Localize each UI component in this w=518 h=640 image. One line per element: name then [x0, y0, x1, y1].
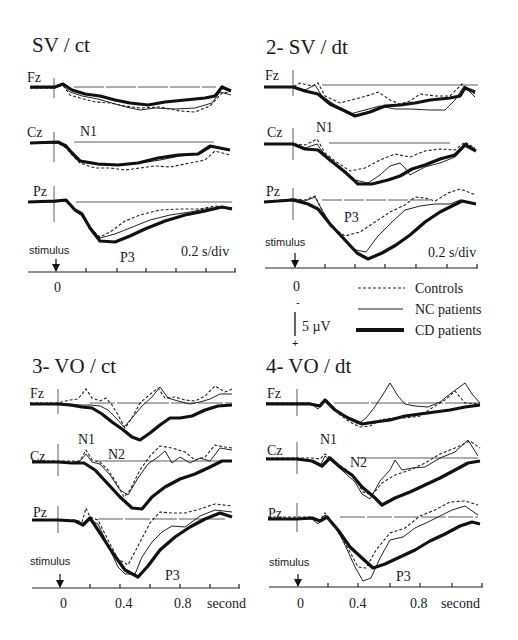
electrode-label-fz: Fz	[27, 70, 41, 85]
xaxis-unit: second	[207, 596, 246, 611]
xaxis-unit: second	[441, 596, 480, 611]
component-label-n2: N2	[108, 447, 125, 462]
trace-cd	[30, 404, 232, 440]
component-label-p3: P3	[120, 250, 135, 265]
stimulus-label: stimulus	[30, 555, 71, 567]
panel-vo-dt: 4- VO / dt Fz Cz N1 N2 Pz stimulus P3	[266, 354, 483, 611]
component-label-p3: P3	[165, 568, 180, 583]
legend-label-controls: Controls	[415, 281, 463, 296]
legend-label-cd: CD patients	[415, 323, 482, 338]
trace-cd	[264, 87, 475, 116]
component-label-n1: N1	[78, 432, 95, 447]
stimulus-arrow-icon	[294, 574, 302, 587]
component-label-n1: N1	[316, 120, 333, 135]
panel-title: 3- VO / ct	[32, 354, 116, 378]
xtick-0-8: 0.8	[174, 596, 192, 611]
electrode-label-pz: Pz	[266, 184, 280, 199]
electrode-label-cz: Cz	[267, 443, 283, 458]
electrode-label-cz: Cz	[267, 125, 283, 140]
svg-text:+: +	[292, 337, 298, 349]
component-label-p3: P3	[344, 210, 359, 225]
electrode-label-pz: Pz	[33, 505, 47, 520]
timescale-label: 0.2 s/div	[181, 244, 229, 259]
xtick-0: 0	[297, 596, 304, 611]
panel-title: 2- SV / dt	[266, 35, 348, 59]
electrode-label-fz: Fz	[265, 68, 279, 83]
legend-label-nc: NC patients	[415, 302, 482, 317]
xtick-0-8: 0.8	[410, 596, 428, 611]
xtick-0: 0	[54, 280, 61, 295]
trace-cd	[32, 513, 232, 577]
panel-title: 4- VO / dt	[266, 354, 352, 378]
trace-controls	[264, 189, 476, 236]
component-label-n1: N1	[320, 432, 337, 447]
stimulus-arrow-icon	[291, 253, 299, 268]
timescale-label: 0.2 s/div	[428, 245, 476, 260]
trace-controls	[28, 201, 232, 237]
xtick-0-4: 0.4	[349, 596, 367, 611]
xtick-0: 0	[293, 279, 300, 294]
component-label-n1: N1	[80, 124, 97, 139]
stimulus-arrow-icon	[52, 259, 60, 272]
electrode-label-fz: Fz	[267, 386, 281, 401]
trace-cd	[28, 200, 232, 242]
electrode-label-pz: Pz	[33, 184, 47, 199]
electrode-label-cz: Cz	[27, 125, 43, 140]
panel-title: SV / ct	[32, 33, 90, 57]
panel-sv-ct: SV / ct Fz Cz N1 Pz stimulus P3 0.2 s/di…	[27, 33, 236, 295]
trace-nc	[30, 387, 232, 427]
electrode-label-fz: Fz	[30, 386, 44, 401]
component-label-p3: P3	[396, 569, 411, 584]
legend: Controls NC patients CD patients	[356, 281, 482, 338]
trace-cd	[266, 458, 480, 505]
trace-controls	[30, 386, 232, 428]
trace-controls	[264, 83, 475, 104]
stimulus-label: stimulus	[269, 556, 310, 568]
trace-cd	[266, 400, 480, 424]
xtick-0-4: 0.4	[115, 596, 133, 611]
panel-sv-dt: 2- SV / dt Fz Cz N1 Pz stimulus P3 0.2 s…	[264, 35, 482, 349]
stimulus-label: stimulus	[29, 244, 70, 256]
panel-vo-ct: 3- VO / ct Fz Cz N1 N2 Pz stimulus P3	[30, 354, 246, 611]
amplitude-scale-bar: - 5 µV +	[292, 296, 331, 349]
stimulus-arrow-icon	[56, 574, 64, 588]
erp-figure: SV / ct Fz Cz N1 Pz stimulus P3 0.2 s/di…	[0, 0, 518, 640]
stimulus-label: stimulus	[265, 236, 306, 248]
component-label-n2: N2	[350, 455, 367, 470]
trace-cd	[264, 144, 476, 184]
xtick-0: 0	[60, 596, 67, 611]
scale-label: 5 µV	[302, 319, 331, 334]
svg-text:-: -	[296, 296, 300, 308]
